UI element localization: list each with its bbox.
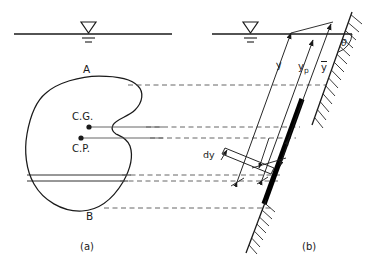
label-edge-a: A — [83, 64, 90, 75]
label-angle-theta: θ — [341, 38, 347, 48]
label-depth-y: y — [275, 60, 282, 71]
label-yp-sub: p — [304, 66, 309, 75]
panel-a-water-surface — [14, 22, 172, 42]
label-depth-yp: yp — [298, 62, 309, 75]
dimension-ybar — [288, 24, 331, 140]
water-surface-triangle-icon — [81, 22, 96, 33]
water-surface-triangle-icon-b — [243, 22, 258, 33]
label-edge-b: B — [86, 211, 93, 222]
dimension-y — [237, 33, 291, 182]
label-cp: C.P. — [72, 144, 90, 154]
dimension-extension-top — [291, 22, 333, 33]
label-ybar-text: y — [321, 63, 327, 73]
dimension-yp — [262, 40, 313, 180]
figure-canvas: A B C.G. C.P. (a) dy y yp y θ (b) — [0, 0, 382, 270]
inclined-plate — [264, 99, 302, 204]
label-dy: dy — [203, 150, 215, 160]
caption-panel-a: (a) — [80, 242, 94, 252]
label-depth-ybar: y — [321, 63, 327, 73]
caption-panel-b: (b) — [302, 242, 316, 252]
dimension-inner-arrows — [252, 135, 290, 168]
cp-dot — [78, 135, 83, 140]
wall-hatching-upper — [312, 12, 362, 128]
diagram-svg — [0, 0, 382, 270]
cg-dot — [86, 124, 91, 129]
label-cg: C.G. — [72, 112, 93, 122]
